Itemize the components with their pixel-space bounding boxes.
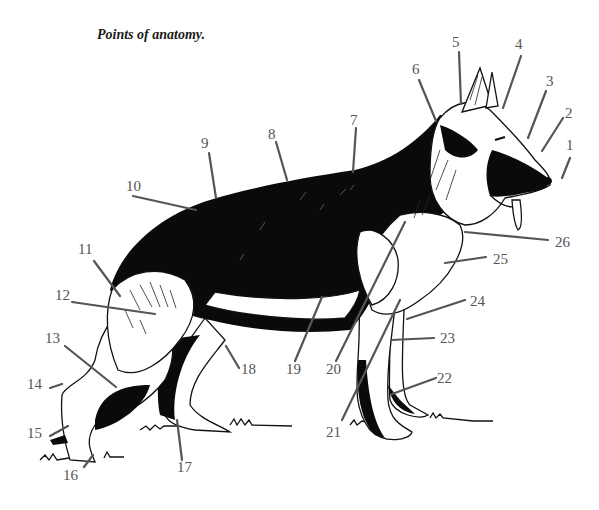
point-label-24: 24 [470,293,486,309]
leader-line-5 [459,52,461,104]
point-label-1: 1 [566,137,574,153]
leader-line-18 [226,346,239,368]
point-label-9: 9 [201,135,209,151]
leader-line-2 [542,118,563,151]
point-label-22: 22 [437,370,452,386]
point-label-25: 25 [493,251,508,267]
point-label-16: 16 [63,467,79,483]
point-label-15: 15 [27,425,42,441]
leader-line-7 [353,128,356,172]
point-label-13: 13 [45,330,60,346]
point-label-19: 19 [286,361,301,377]
point-label-18: 18 [241,361,256,377]
point-label-23: 23 [440,330,455,346]
point-label-8: 8 [268,126,276,142]
point-label-10: 10 [126,178,141,194]
leader-line-26 [465,232,548,240]
point-label-11: 11 [78,241,92,257]
point-label-7: 7 [350,112,358,128]
point-label-12: 12 [55,287,70,303]
leader-line-1 [562,158,570,178]
point-label-6: 6 [412,61,420,77]
leader-line-14 [50,384,62,388]
point-label-26: 26 [555,234,571,250]
point-label-21: 21 [326,424,341,440]
leader-line-4 [503,56,521,108]
point-label-2: 2 [565,105,573,121]
point-label-14: 14 [27,376,43,392]
point-label-4: 4 [515,36,523,52]
point-label-17: 17 [177,459,193,475]
leader-line-8 [276,142,287,180]
leader-line-10 [133,196,196,210]
nose [542,177,552,185]
leader-line-3 [528,91,546,138]
tongue [512,200,521,230]
leader-line-6 [419,80,436,121]
point-label-20: 20 [326,361,341,377]
point-label-5: 5 [452,34,460,50]
dog-anatomy-illustration: 1234567891011121314151617181920212223242… [0,0,599,510]
leader-line-9 [209,153,216,198]
point-label-3: 3 [546,73,554,89]
